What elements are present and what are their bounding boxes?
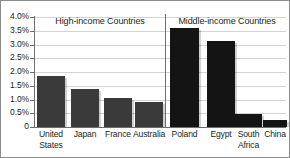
- y-axis-tick-mark: [30, 17, 35, 18]
- y-axis-tick-mark: [30, 86, 35, 87]
- y-axis-tick-mark: [30, 58, 35, 59]
- gridline: [34, 31, 286, 32]
- y-axis-tick-label: 4.0%: [2, 12, 29, 21]
- bar-fill: [135, 102, 163, 127]
- bar-fill: [71, 89, 99, 128]
- x-axis-label-line: States: [21, 140, 81, 151]
- y-axis-tick-label: 0.5%: [2, 108, 29, 117]
- y-axis-tick-mark: [30, 127, 35, 128]
- bar: [170, 28, 199, 127]
- bar-fill: [37, 76, 65, 127]
- bar: [263, 120, 287, 127]
- gridline: [34, 45, 286, 46]
- gridline: [34, 127, 286, 128]
- bar-fill: [235, 114, 262, 127]
- gridline: [34, 58, 286, 59]
- y-axis-tick-label: 2.0%: [2, 67, 29, 76]
- panel-title-high-income: High-income Countries: [37, 16, 163, 26]
- x-axis-label-line: China: [264, 129, 286, 139]
- bar-shadow: [199, 30, 201, 127]
- bar: [71, 89, 99, 128]
- gridline: [34, 86, 286, 87]
- plot-area: [34, 17, 286, 127]
- bar: [207, 41, 235, 127]
- bar: [235, 114, 262, 127]
- bar: [37, 76, 65, 127]
- bar-shadow: [132, 100, 134, 127]
- panel-title-middle-income: Middle-income Countries: [167, 16, 287, 26]
- x-axis-label-line: Africa: [219, 140, 279, 151]
- bar-shadow: [99, 91, 101, 128]
- bar-shadow: [65, 78, 67, 127]
- y-axis-tick-label: 2.5%: [2, 53, 29, 62]
- bar-shadow: [287, 122, 289, 127]
- y-axis-tick-mark: [30, 31, 35, 32]
- y-axis-tick-mark: [30, 45, 35, 46]
- y-axis-tick-label: 3.5%: [2, 26, 29, 35]
- bar-fill: [170, 28, 199, 127]
- y-axis-tick-label: 3.0%: [2, 40, 29, 49]
- bar: [104, 98, 132, 127]
- y-axis-tick-label: 1.5%: [2, 81, 29, 90]
- x-axis-category-labels: UnitedStatesJapanFranceAustraliaPolandEg…: [1, 129, 290, 158]
- y-axis-tick-mark: [30, 72, 35, 73]
- bar-fill: [207, 41, 235, 127]
- x-axis-label: China: [245, 129, 290, 140]
- bar-chart: 4.0%3.5%3.0%2.5%2.0%1.5%1.0%0.5%0 High-i…: [0, 0, 290, 158]
- bar-fill: [263, 120, 287, 127]
- gridline: [34, 72, 286, 73]
- bar: [135, 102, 163, 127]
- y-axis-tick-mark: [30, 100, 35, 101]
- panel-divider: [165, 14, 166, 128]
- bar-fill: [104, 98, 132, 127]
- y-axis-tick-mark: [30, 113, 35, 114]
- y-axis-tick-label: 1.0%: [2, 95, 29, 104]
